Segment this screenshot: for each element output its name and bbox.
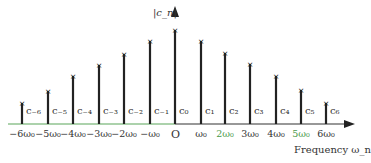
- spike-cross-marker-icon: ×: [19, 99, 26, 108]
- spike-cross-marker-icon: ×: [323, 99, 330, 108]
- spike-cross-marker-icon: ×: [273, 72, 280, 81]
- coefficient-label: c₀: [179, 105, 189, 116]
- spike-cross-marker-icon: ×: [70, 72, 77, 81]
- frequency-tick-label: 2ω₀: [216, 128, 234, 139]
- frequency-tick-label: ω₀: [195, 128, 207, 139]
- frequency-tick-label: −5ω₀: [35, 128, 61, 139]
- frequency-tick-label: 4ω₀: [267, 128, 285, 139]
- spike-cross-marker-icon: ×: [247, 60, 254, 69]
- coefficient-label: c₋₁: [154, 105, 169, 116]
- spike-cross-marker-icon: ×: [147, 37, 154, 46]
- frequency-tick-label: −2ω₀: [111, 128, 137, 139]
- x-axis-arrow-icon: [344, 120, 355, 128]
- spike-cross-marker-icon: ×: [198, 37, 205, 46]
- coefficient-label: c₋₄: [77, 105, 92, 116]
- spike-cross-marker-icon: ×: [172, 26, 179, 35]
- coefficient-label: c₅: [305, 105, 315, 116]
- frequency-tick-label: −6ω₀: [9, 128, 35, 139]
- origin-label: O: [171, 128, 180, 141]
- x-axis-label: Frequency ω_n: [294, 144, 371, 155]
- frequency-tick-label: 3ω₀: [241, 128, 259, 139]
- coefficient-label: c₄: [280, 105, 290, 116]
- coefficient-label: c₋₅: [52, 105, 67, 116]
- y-axis-label: |c_n|: [153, 7, 177, 18]
- spike-cross-marker-icon: ×: [298, 86, 305, 95]
- frequency-tick-label: 5ω₀: [292, 128, 310, 139]
- coefficient-label: c₋₆: [26, 105, 41, 116]
- coefficient-label: c₆: [330, 105, 340, 116]
- frequency-tick-label: −4ω₀: [60, 128, 86, 139]
- spike-cross-marker-icon: ×: [96, 61, 103, 70]
- coefficient-label: c₋₃: [103, 105, 118, 116]
- spike-cross-marker-icon: ×: [121, 50, 128, 59]
- coefficient-label: c₃: [254, 105, 264, 116]
- frequency-tick-label: 6ω₀: [317, 128, 335, 139]
- spike-cross-marker-icon: ×: [222, 49, 229, 58]
- frequency-tick-label: −3ω₀: [86, 128, 112, 139]
- spike-cross-marker-icon: ×: [45, 87, 52, 96]
- coefficient-label: c₁: [205, 105, 215, 116]
- frequency-tick-label: −ω₀: [140, 128, 160, 139]
- coefficient-label: c₂: [229, 105, 239, 116]
- coefficient-label: c₋₂: [128, 105, 143, 116]
